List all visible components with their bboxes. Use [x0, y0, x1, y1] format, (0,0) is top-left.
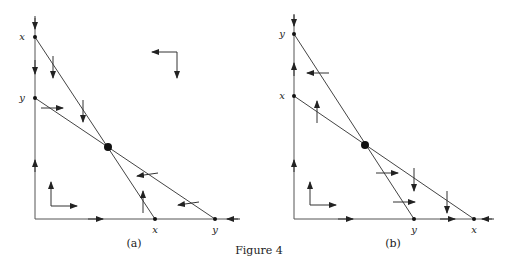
- arrow-left-icon: [178, 202, 199, 205]
- y-nullcline: [35, 98, 215, 219]
- y-nullcline: [294, 34, 414, 219]
- horizontal-far-label: x: [471, 224, 477, 235]
- horizontal-near-label: x: [152, 224, 158, 235]
- x-intercept-point: [292, 94, 296, 98]
- direction-legend-up-right: [51, 182, 77, 206]
- vertical-lower-label: y: [18, 92, 25, 103]
- vertical-lower-label: x: [279, 90, 285, 101]
- direction-legend-up-right: [310, 182, 336, 205]
- y-intercept-point: [33, 96, 37, 100]
- panel-caption: (b): [385, 237, 401, 250]
- equilibrium-point: [104, 143, 112, 151]
- vertical-top-label: x: [19, 31, 25, 42]
- vertical-top-label: y: [278, 28, 285, 39]
- y-axis-point: [412, 217, 416, 221]
- horizontal-near-label: y: [410, 224, 417, 235]
- panel-caption: (a): [126, 237, 141, 250]
- equilibrium-point: [361, 141, 369, 149]
- y-axis-point: [213, 217, 217, 221]
- horizontal-far-label: y: [211, 224, 218, 235]
- x-intercept-point: [33, 35, 37, 39]
- y-intercept-point: [292, 32, 296, 36]
- x-axis-point: [472, 217, 476, 221]
- panel-b: y x y x (b): [278, 14, 494, 250]
- figure-caption: Figure 4: [235, 244, 283, 257]
- direction-legend-left-down: [152, 52, 177, 78]
- panel-a: x y x y (a): [18, 16, 240, 250]
- figure-canvas: x y x y (a) y x y: [0, 0, 514, 267]
- x-axis-point: [153, 217, 157, 221]
